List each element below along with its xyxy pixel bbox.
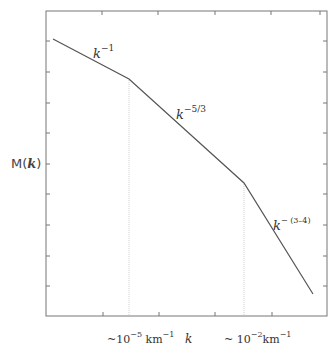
- breakpoint-2-label: ~ 10−2km−1: [224, 330, 291, 346]
- x-ticks-top: [102, 11, 320, 15]
- plot-frame: [46, 11, 327, 316]
- y-ticks-right: [323, 41, 327, 286]
- spectrum-line: [53, 39, 313, 294]
- seg3-label: k− (3–4): [273, 216, 311, 233]
- x-axis-label: k: [185, 332, 192, 346]
- seg1-label: k−1: [93, 43, 114, 61]
- spectrum-chart: k−1 k−5/3 k− (3–4) M(k) ~10−5 km−1 k ~ 1…: [0, 0, 335, 354]
- breakpoint-1-label: ~10−5 km−1: [107, 330, 174, 346]
- y-axis-label: M(k): [11, 156, 41, 171]
- x-ticks-bottom: [103, 312, 272, 316]
- seg2-label: k−5/3: [176, 104, 206, 122]
- y-ticks-left: [46, 41, 50, 286]
